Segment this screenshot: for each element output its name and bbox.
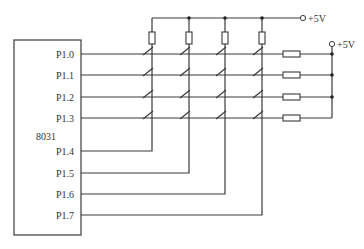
pin-label-p12: P1.2 — [56, 92, 74, 103]
pin-label-p16: P1.6 — [56, 189, 74, 200]
column-lines — [81, 18, 262, 215]
pin-label-p17: P1.7 — [56, 210, 74, 221]
key-switches — [143, 47, 263, 119]
junction-dot — [330, 95, 334, 99]
row-lines — [81, 54, 332, 118]
chip-label: 8031 — [36, 131, 56, 142]
pin-label-p10: P1.0 — [56, 49, 74, 60]
pin-label-p11: P1.1 — [56, 70, 74, 81]
junction-dot — [187, 16, 191, 20]
pin-label-p14: P1.4 — [56, 146, 74, 157]
junction-dot — [330, 52, 334, 56]
junction-dot — [223, 16, 227, 20]
junction-dot — [330, 73, 334, 77]
pin-label-p13: P1.3 — [56, 113, 74, 124]
top-supply-terminal — [300, 15, 305, 20]
top-supply-label: +5V — [308, 13, 327, 24]
circuit-diagram: 8031 P1.0 P1.1 P1.2 P1.3 P1.4 P1.5 P1.6 … — [0, 0, 364, 249]
right-supply-terminal — [329, 41, 334, 46]
column-resistors — [149, 32, 265, 44]
junction-dot — [260, 16, 264, 20]
right-supply-label: +5V — [337, 39, 356, 50]
row-resistors — [283, 51, 300, 121]
pin-label-p15: P1.5 — [56, 168, 74, 179]
